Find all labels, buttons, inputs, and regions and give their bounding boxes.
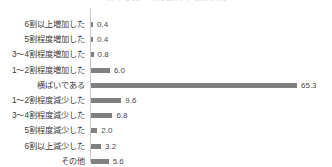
- bar-value-label: 0.8: [98, 47, 109, 62]
- bar-track: 5.6: [91, 154, 332, 167]
- bar-track: 9.6: [91, 93, 332, 108]
- category-label: 3〜4割程度減少した: [0, 108, 85, 123]
- bar-row: 3〜4割程度増加した0.8: [0, 47, 332, 62]
- bar-value-label: 2.0: [101, 123, 112, 138]
- bar-chart: 前年と比べた売上高の増減状況 6割以上増加した0.45割程度増加した0.43〜4…: [0, 0, 332, 167]
- bar-track: 0.4: [91, 17, 332, 32]
- bar-value-label: 65.3: [301, 78, 317, 93]
- bar-track: 3.2: [91, 139, 332, 154]
- bar: [91, 98, 121, 103]
- clipped-header-text: 前年と比べた売上高の増減状況: [0, 0, 332, 3]
- bar: [91, 113, 112, 118]
- bar-value-label: 9.6: [125, 93, 136, 108]
- category-label: 6割以上増加した: [0, 17, 85, 32]
- bar-value-label: 6.0: [114, 63, 125, 78]
- bar-row: 1〜2割程度減少した9.6: [0, 93, 332, 108]
- bar-row: 6割以上減少した3.2: [0, 139, 332, 154]
- category-label: 横ばいである: [0, 78, 85, 93]
- category-label: 3〜4割程度増加した: [0, 47, 85, 62]
- bar-row: 3〜4割程度減少した6.8: [0, 108, 332, 123]
- bar-row: その他5.6: [0, 154, 332, 167]
- bar-row: 横ばいである65.3: [0, 78, 332, 93]
- bar: [91, 22, 93, 27]
- bar-track: 0.8: [91, 47, 332, 62]
- bar-row: 5割程度減少した2.0: [0, 123, 332, 138]
- bar-value-label: 6.8: [116, 108, 127, 123]
- bar-value-label: 0.4: [97, 17, 108, 32]
- bar-row: 5割程度増加した0.4: [0, 32, 332, 47]
- bar: [91, 52, 94, 57]
- bar: [91, 159, 109, 164]
- bar: [91, 68, 110, 73]
- bar: [91, 83, 297, 88]
- category-label: 5割程度増加した: [0, 32, 85, 47]
- bar-track: 6.8: [91, 108, 332, 123]
- bar-row: 6割以上増加した0.4: [0, 17, 332, 32]
- category-label: 1〜2割程度減少した: [0, 93, 85, 108]
- category-label: 5割程度減少した: [0, 123, 85, 138]
- bar-row: 1〜2割程度増加した6.0: [0, 63, 332, 78]
- bar-track: 6.0: [91, 63, 332, 78]
- category-label: その他: [0, 154, 85, 167]
- bar: [91, 144, 101, 149]
- bar-value-label: 3.2: [105, 139, 116, 154]
- bar-track: 2.0: [91, 123, 332, 138]
- bar-track: 65.3: [91, 78, 332, 93]
- category-label: 1〜2割程度増加した: [0, 63, 85, 78]
- bar-track: 0.4: [91, 32, 332, 47]
- category-label: 6割以上減少した: [0, 139, 85, 154]
- bar-value-label: 0.4: [97, 32, 108, 47]
- bar: [91, 128, 97, 133]
- bar: [91, 37, 93, 42]
- bar-value-label: 5.6: [113, 154, 124, 167]
- plot-area: 6割以上増加した0.45割程度増加した0.43〜4割程度増加した0.81〜2割程…: [0, 8, 332, 167]
